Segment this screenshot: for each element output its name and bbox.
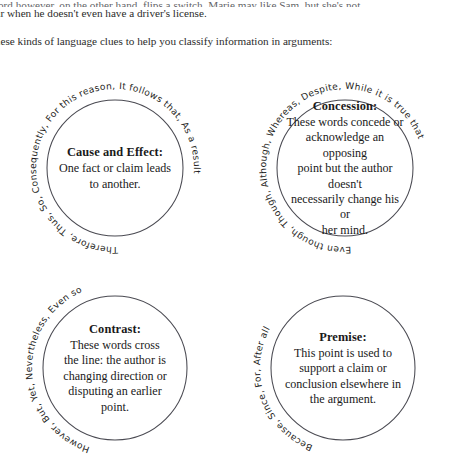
language-clues-diagram: Therefore, Thus, So, Consequently, For t… [0, 62, 460, 454]
node-description-line: point but the author doesn't [284, 161, 405, 192]
node-body-contrast: Contrast:These words crossthe line: the … [51, 259, 179, 454]
node-title-concession: Concession: [313, 98, 377, 114]
prose-line-3: e these kinds of language clues to help … [0, 35, 460, 47]
node-description-contrast: These words crossthe line: the author is… [63, 338, 166, 415]
node-title-cause-and-effect: Cause and Effect: [67, 144, 163, 160]
diagram-node-contrast: However, But, Yet, Nevertheless, Even so… [6, 259, 224, 454]
node-description-line: These words concede or [284, 115, 405, 130]
node-description-line: disputing an earlier [63, 384, 166, 399]
diagram-node-premise: Because, Since, For, After allPremise:Th… [234, 259, 452, 454]
node-description-line: to another. [59, 177, 171, 192]
node-description-line: necessarily change his or [284, 192, 405, 223]
prose-spacer [0, 19, 460, 35]
node-description-concession: These words concede oracknowledge an opp… [284, 115, 405, 238]
node-description-premise: This point is used tosupport a claim orc… [285, 346, 401, 408]
node-description-line: point. [63, 400, 166, 415]
node-description-line: These words cross [63, 338, 166, 353]
prose-line-clipped: t word however, on the other hand, flips… [0, 0, 460, 7]
diagram-node-cause-and-effect: Therefore, Thus, So, Consequently, For t… [10, 63, 220, 273]
node-description-line: changing direction or [63, 369, 166, 384]
node-description-line: This point is used to [285, 346, 401, 361]
node-description-line: the line: the author is [63, 353, 166, 368]
node-description-line: her mind. [284, 223, 405, 238]
prose-block: t word however, on the other hand, flips… [0, 0, 460, 47]
node-description-cause-and-effect: One fact or claim leadsto another. [59, 161, 171, 192]
node-body-concession: Concession:These words concede oracknowl… [284, 63, 405, 273]
node-body-premise: Premise:This point is used tosupport a c… [279, 259, 407, 454]
prose-line-2: r car when he doesn't even have a driver… [0, 7, 460, 19]
node-body-cause-and-effect: Cause and Effect:One fact or claim leads… [54, 63, 175, 273]
node-description-line: acknowledge an opposing [284, 130, 405, 161]
node-description-line: One fact or claim leads [59, 161, 171, 176]
node-title-contrast: Contrast: [89, 321, 141, 337]
node-description-line: support a claim or [285, 361, 401, 376]
node-description-line: the argument. [285, 392, 401, 407]
node-title-premise: Premise: [319, 329, 366, 345]
diagram-node-concession: Even though, Though, Although, Whereas, … [240, 63, 450, 273]
node-description-line: conclusion elsewhere in [285, 377, 401, 392]
